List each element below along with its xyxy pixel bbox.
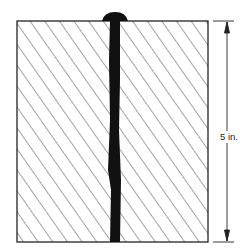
dimension-label: 5 in.: [217, 131, 241, 143]
arrow-down-icon: [225, 230, 230, 241]
weld-diagram: [0, 0, 249, 252]
arrow-up-icon: [225, 22, 230, 33]
